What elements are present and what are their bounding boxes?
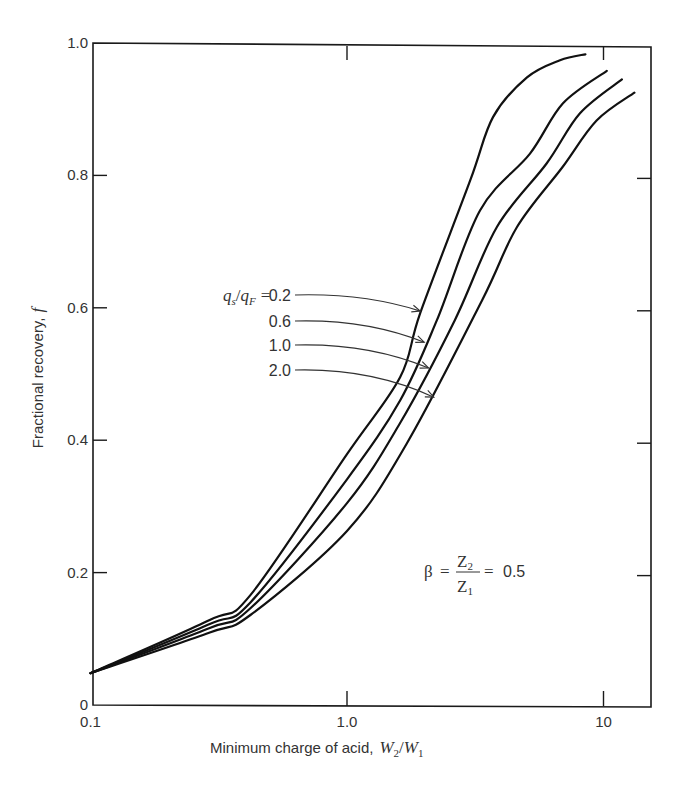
y-tick-label: 0 [80,696,88,713]
axis-titles: Minimum charge of acid,W2/W1 Fractional … [28,306,423,759]
axes [93,43,651,707]
beta-annotation: β = Z2 Z1 = 0.5 [424,552,525,597]
x-tick-label: 1.0 [337,713,358,730]
beta-numerator: Z2 [457,552,473,572]
legend-prefix: qs/qF= [223,286,270,307]
x-axis-title-sub1: 1 [418,747,424,759]
plot-frame [93,43,651,707]
tick-labels: 00.20.40.60.81.00.11.010 [67,34,612,730]
curve-q-1-0 [91,79,622,673]
x-axis-title-text: Minimum charge of acid, [210,739,373,756]
ticks [93,46,651,706]
curve-q-2-0 [91,93,635,674]
legend-label-q-0-6: 0.6 [269,313,291,330]
beta-equals: = [440,562,450,581]
beta-denominator: Z1 [457,577,473,597]
legend-label-q-2-0: 2.0 [269,362,291,379]
beta-numerator-sub: 2 [467,560,473,572]
y-tick-label: 1.0 [67,34,88,51]
legend-prefix-sub-f: F [248,295,256,307]
legend-label-q-0-2: 0.2 [269,287,291,304]
legend-items: 0.20.61.02.0 [269,287,434,397]
x-tick-label: 10 [595,713,612,730]
beta-numerator-z: Z [457,552,467,571]
y-tick-label: 0.4 [67,431,88,448]
curve-q-0-6 [91,71,607,673]
x-tick-label: 0.1 [80,713,101,730]
y-axis-title: Fractional recovery,f [28,306,47,449]
curves [91,54,635,673]
y-tick-label: 0.8 [67,166,88,183]
beta-denominator-z: Z [457,577,467,596]
x-axis-title: Minimum charge of acid,W2/W1 [210,738,423,759]
beta-value: 0.5 [503,563,525,580]
beta-symbol: β [424,562,433,581]
beta-equals-2: = [484,562,494,581]
chart: 00.20.40.60.81.00.11.010 qs/qF= 0.20.61.… [0,0,682,791]
legend-leader-line [295,321,424,342]
legend-leader-line [295,295,420,311]
curve-q-0-2 [91,54,586,673]
y-axis-title-f: f [28,306,47,313]
beta-denominator-sub: 1 [467,585,473,597]
legend-label-q-1-0: 1.0 [269,337,291,354]
legend: qs/qF= 0.20.61.02.0 [223,286,434,397]
y-axis-title-text: Fractional recovery, [29,318,46,449]
y-tick-label: 0.6 [67,299,88,316]
y-tick-label: 0.2 [67,564,88,581]
